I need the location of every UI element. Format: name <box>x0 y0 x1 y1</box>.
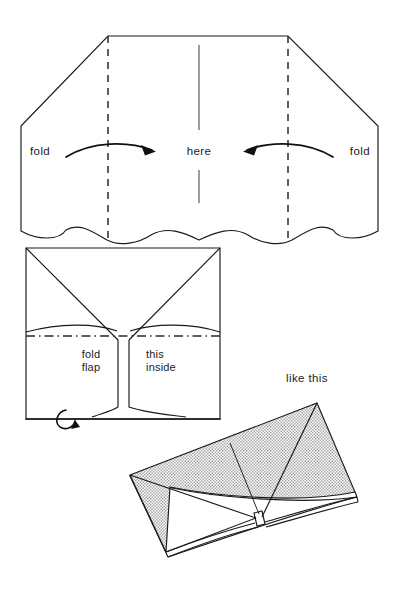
label-inside: inside <box>146 361 176 373</box>
diagram-canvas: fold here fold <box>0 0 402 604</box>
label-flap: flap <box>82 361 101 373</box>
label-this: this <box>146 348 164 360</box>
label-here: here <box>187 145 212 157</box>
label-fold-right: fold <box>350 145 370 157</box>
label-like-this: like this <box>286 372 328 384</box>
folding-diagram-figure: fold here fold <box>0 0 402 604</box>
folded-body-outline <box>26 248 220 419</box>
label-fold: fold <box>82 348 101 360</box>
label-fold-left: fold <box>30 145 50 157</box>
step-two-folded-sheet: fold flap this inside <box>26 248 220 429</box>
